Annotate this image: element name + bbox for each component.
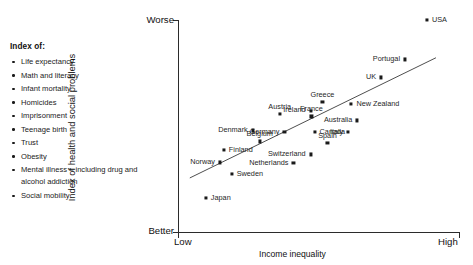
data-point-label: Portugal xyxy=(373,56,400,63)
data-point-marker xyxy=(313,130,316,133)
x-axis-line xyxy=(178,232,460,233)
data-point-marker xyxy=(404,58,407,61)
data-point-label: Sweden xyxy=(237,171,263,178)
data-point-marker xyxy=(350,102,353,105)
data-point-marker xyxy=(283,130,286,133)
y-axis-label-better: Better xyxy=(126,225,174,236)
data-point-marker xyxy=(204,197,207,200)
x-axis-label-high: High xyxy=(438,236,458,247)
chart-figure: Index of: Life expectancyMath and litera… xyxy=(0,0,473,265)
data-point-label: Norway xyxy=(190,159,215,166)
data-point-label: Austria xyxy=(268,103,291,110)
data-point-label: UK xyxy=(366,74,376,81)
data-point-marker xyxy=(326,142,329,145)
data-point-marker xyxy=(230,173,233,176)
data-point-marker xyxy=(258,140,261,143)
data-point-marker xyxy=(380,76,383,79)
data-point-marker xyxy=(356,119,359,122)
y-axis-title: Index of health and social problems xyxy=(66,23,77,233)
x-axis-tick-high xyxy=(459,233,460,238)
data-point-marker xyxy=(222,149,225,152)
data-point-marker xyxy=(278,113,281,116)
data-point-marker xyxy=(218,161,221,164)
data-point-marker xyxy=(310,115,313,118)
data-point-marker xyxy=(347,130,350,133)
x-axis-title: Income inequality xyxy=(259,249,326,259)
y-axis-line xyxy=(178,20,179,233)
data-point-marker xyxy=(321,101,324,104)
data-point-label: France xyxy=(300,105,323,112)
data-point-label: Greece xyxy=(310,91,334,98)
data-point-label: Netherlands xyxy=(249,160,288,167)
data-point-label: Australia xyxy=(324,117,352,124)
data-point-label: USA xyxy=(432,16,447,23)
y-axis-label-worse: Worse xyxy=(130,14,174,25)
data-point-label: Switzerland xyxy=(268,151,306,158)
data-point-label: Denmark xyxy=(218,127,248,134)
x-axis-label-low: Low xyxy=(174,236,192,247)
data-point-marker xyxy=(425,18,428,21)
data-point-label: Belgium xyxy=(247,130,273,137)
data-point-marker xyxy=(292,162,295,165)
data-point-label: Finland xyxy=(229,147,253,154)
data-point-label: Japan xyxy=(211,195,231,202)
data-point-marker xyxy=(309,153,312,156)
plot-area: Worse Better Low High Income inequality … xyxy=(0,0,473,265)
data-point-label: Spain xyxy=(318,132,337,139)
data-point-label: New Zealand xyxy=(356,100,399,107)
